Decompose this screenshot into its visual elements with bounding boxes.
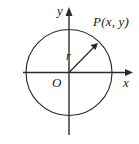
x-axis-label: x bbox=[123, 76, 129, 89]
radius-label: r bbox=[66, 50, 71, 62]
y-axis-label: y bbox=[57, 4, 63, 17]
origin-label: O bbox=[52, 76, 61, 89]
y-axis-arrowhead-icon bbox=[66, 7, 73, 16]
point-p-label: P(x, y) bbox=[93, 15, 129, 28]
coordinate-circle-figure: y x O r P(x, y) bbox=[0, 0, 139, 144]
radius-vector-line bbox=[69, 47, 95, 73]
